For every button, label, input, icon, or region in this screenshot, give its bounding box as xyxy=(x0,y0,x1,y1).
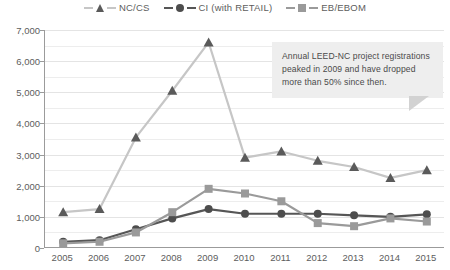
y-axis-tick xyxy=(40,186,44,187)
x-axis-label: 2006 xyxy=(88,252,109,263)
y-axis-label: 5,000 xyxy=(0,87,40,98)
x-axis-label: 2008 xyxy=(161,252,182,263)
square-icon xyxy=(168,208,176,216)
legend-line-nc-cs-right xyxy=(107,7,116,9)
y-axis-tick xyxy=(40,92,44,93)
circle-icon xyxy=(241,210,249,218)
square-icon xyxy=(59,239,67,247)
y-axis-tick xyxy=(40,155,44,156)
circle-icon xyxy=(176,4,184,12)
square-icon xyxy=(277,197,285,205)
y-axis-tick xyxy=(40,30,44,31)
legend-line-nc-cs xyxy=(84,7,93,9)
x-axis-label: 2012 xyxy=(306,252,327,263)
line-chart: NC/CS CI (with RETAIL) EB/EBOM 01,0002,0… xyxy=(0,0,450,270)
legend-label-ci: CI (with RETAIL) xyxy=(199,2,273,13)
y-axis-tick xyxy=(40,123,44,124)
y-axis-label: 0 xyxy=(0,243,40,254)
x-axis-label: 2015 xyxy=(415,252,436,263)
square-icon xyxy=(132,228,140,236)
square-icon xyxy=(314,219,322,227)
legend-line-eb xyxy=(286,7,295,9)
y-axis-tick xyxy=(40,248,44,249)
circle-icon xyxy=(314,210,322,218)
x-axis-label: 2005 xyxy=(52,252,73,263)
square-icon xyxy=(241,190,249,198)
y-axis-label: 1,000 xyxy=(0,211,40,222)
triangle-icon xyxy=(422,165,432,174)
legend-item-eb-ebom[interactable]: EB/EBOM xyxy=(286,2,366,13)
square-icon xyxy=(205,185,213,193)
square-icon xyxy=(298,4,306,12)
y-axis-tick xyxy=(40,61,44,62)
square-icon xyxy=(386,214,394,222)
legend-item-nc-cs[interactable]: NC/CS xyxy=(84,2,150,13)
square-icon xyxy=(96,238,104,246)
x-axis-label: 2014 xyxy=(379,252,400,263)
legend-label-nc-cs: NC/CS xyxy=(119,2,150,13)
circle-icon xyxy=(350,211,358,219)
circle-icon xyxy=(277,210,285,218)
y-axis-label: 2,000 xyxy=(0,180,40,191)
circle-icon xyxy=(205,205,213,213)
y-axis-label: 3,000 xyxy=(0,149,40,160)
chart-legend: NC/CS CI (with RETAIL) EB/EBOM xyxy=(0,2,450,13)
legend-label-eb-ebom: EB/EBOM xyxy=(321,2,366,13)
legend-item-ci[interactable]: CI (with RETAIL) xyxy=(164,2,273,13)
x-axis-label: 2007 xyxy=(124,252,145,263)
y-axis-label: 7,000 xyxy=(0,25,40,36)
legend-line-ci xyxy=(164,7,173,9)
legend-line-eb-right xyxy=(309,7,318,9)
triangle-icon xyxy=(204,37,214,46)
square-icon xyxy=(423,218,431,226)
square-icon xyxy=(350,222,358,230)
annotation-callout-tail xyxy=(409,96,429,111)
y-axis-label: 4,000 xyxy=(0,118,40,129)
x-axis-label: 2013 xyxy=(343,252,364,263)
triangle-icon xyxy=(96,4,104,12)
x-axis-label: 2011 xyxy=(270,252,290,263)
x-axis-label: 2009 xyxy=(197,252,218,263)
circle-icon xyxy=(423,210,431,218)
y-axis-tick xyxy=(40,217,44,218)
series-ci-with-retail xyxy=(59,205,431,246)
annotation-callout: Annual LEED-NC project registrations pea… xyxy=(272,42,443,98)
legend-line-ci-right xyxy=(187,7,196,9)
x-axis-label: 2010 xyxy=(233,252,254,263)
y-axis-label: 6,000 xyxy=(0,56,40,67)
